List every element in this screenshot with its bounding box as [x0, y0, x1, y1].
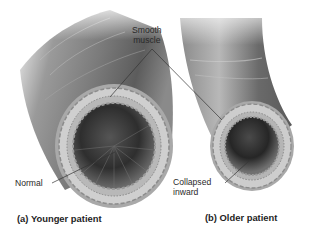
older-airway-tube — [175, 0, 294, 191]
collapsed-inward-label: Collapsed inward — [173, 177, 211, 197]
smooth-muscle-label-line2: muscle — [132, 35, 162, 45]
collapsed-label-line2: inward — [173, 187, 211, 197]
airway-comparison-diagram: Smooth muscle Normal Collapsed inward (a… — [0, 0, 312, 230]
smooth-muscle-label: Smooth muscle — [132, 25, 162, 45]
collapsed-label-line1: Collapsed — [173, 177, 211, 187]
normal-label: Normal — [15, 178, 43, 188]
caption-younger-patient: (a) Younger patient — [17, 213, 102, 224]
caption-older-patient: (b) Older patient — [205, 212, 277, 223]
smooth-muscle-label-line1: Smooth — [132, 25, 162, 35]
